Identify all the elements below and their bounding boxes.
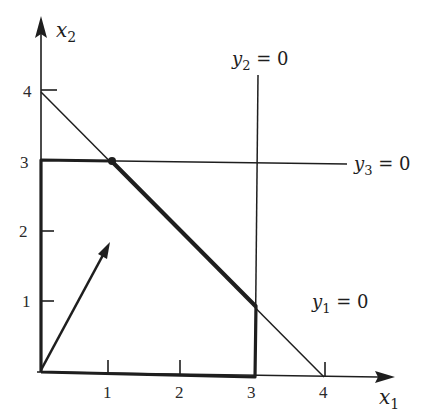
arrowhead-icon bbox=[98, 242, 110, 259]
optimal-vertex-dot bbox=[108, 157, 116, 165]
x-tick-3: 3 bbox=[247, 383, 256, 402]
x-tick-2: 2 bbox=[175, 383, 184, 402]
y-axis-label: x2 bbox=[56, 18, 76, 45]
x-axis: 1 2 3 4 x1 bbox=[37, 360, 399, 412]
y-tick-1: 1 bbox=[22, 292, 31, 311]
objective-direction-arrow bbox=[41, 242, 110, 370]
x-axis-label: x1 bbox=[379, 385, 399, 412]
constraint-lines bbox=[41, 75, 347, 377]
lp-diagram: 1 2 3 4 x1 1 2 3 4 x2 y2 = 0 bbox=[0, 0, 423, 415]
y-tick-3: 3 bbox=[20, 153, 29, 172]
x-axis-arrowhead-icon bbox=[375, 371, 395, 383]
y-tick-2: 2 bbox=[19, 222, 28, 241]
feasible-region-boundary bbox=[41, 160, 256, 377]
x-tick-1: 1 bbox=[103, 383, 112, 402]
label-y2: y2 = 0 bbox=[231, 48, 288, 73]
constraint-line-y1 bbox=[41, 92, 324, 377]
label-y1: y1 = 0 bbox=[311, 291, 368, 316]
y-tick-4: 4 bbox=[23, 82, 32, 101]
label-y3: y3 = 0 bbox=[353, 153, 410, 178]
x-tick-4: 4 bbox=[319, 383, 328, 402]
